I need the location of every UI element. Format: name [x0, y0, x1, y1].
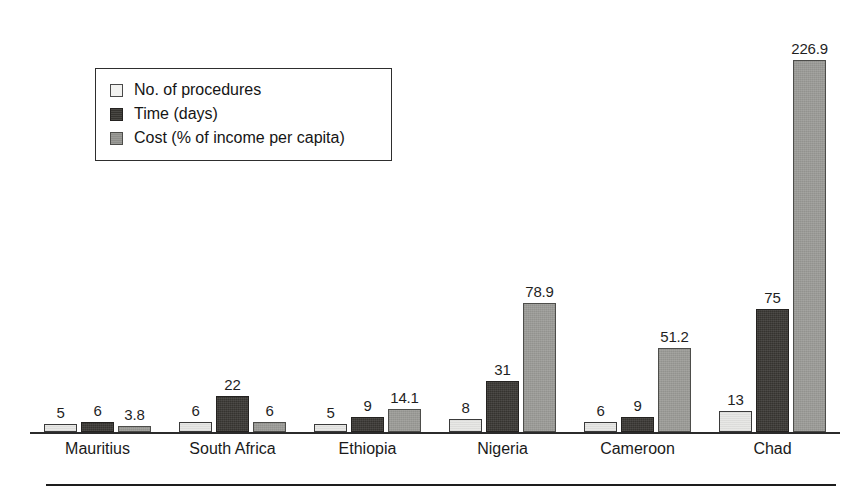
category-label: Nigeria — [435, 440, 570, 458]
bar-slot: 22 — [216, 0, 249, 432]
bar[interactable] — [449, 419, 482, 432]
bar-group-bars: 6951.2 — [570, 0, 705, 432]
bar[interactable] — [388, 409, 421, 432]
legend-label-cost-pct-income: Cost (% of income per capita) — [134, 129, 345, 147]
bar[interactable] — [81, 422, 114, 432]
bar-slot: 78.9 — [523, 0, 556, 432]
bar-group-bars: 1375226.9 — [705, 0, 840, 432]
category-axis-line — [30, 432, 840, 434]
bar-slot: 6 — [179, 0, 212, 432]
bar-value-label: 226.9 — [791, 41, 828, 56]
bar-group: 563.8Mauritius — [30, 0, 165, 432]
legend-item-cost-pct-income: Cost (% of income per capita) — [110, 126, 379, 150]
bar-group-bars: 563.8 — [30, 0, 165, 432]
bar-slot: 6 — [584, 0, 617, 432]
bar-slot: 9 — [621, 0, 654, 432]
bar-slot: 31 — [486, 0, 519, 432]
bar[interactable] — [216, 396, 249, 432]
bar-value-label: 5 — [326, 405, 334, 420]
footer-caption — [52, 490, 552, 499]
bar[interactable] — [756, 309, 789, 432]
chart-legend: No. of procedures Time (days) Cost (% of… — [95, 68, 392, 161]
bar[interactable] — [523, 303, 556, 432]
bar-groups: 563.8Mauritius6226South Africa5914.1Ethi… — [30, 0, 840, 432]
chart-page: 563.8Mauritius6226South Africa5914.1Ethi… — [0, 0, 863, 499]
bar[interactable] — [719, 411, 752, 432]
bar-slot: 75 — [756, 0, 789, 432]
bar-value-label: 6 — [191, 403, 199, 418]
bar-slot: 5 — [314, 0, 347, 432]
bar-group: 83178.9Nigeria — [435, 0, 570, 432]
bar-value-label: 5 — [56, 405, 64, 420]
category-label: Mauritius — [30, 440, 165, 458]
bar-slot: 8 — [449, 0, 482, 432]
bar-value-label: 31 — [494, 362, 510, 377]
bar-slot: 226.9 — [793, 0, 826, 432]
bar-value-label: 78.9 — [525, 284, 553, 299]
bar-value-label: 51.2 — [660, 329, 688, 344]
bar-slot: 9 — [351, 0, 384, 432]
bar-value-label: 75 — [764, 290, 780, 305]
category-label: Cameroon — [570, 440, 705, 458]
legend-item-no-of-procedures: No. of procedures — [110, 78, 379, 102]
bar[interactable] — [584, 422, 617, 432]
legend-swatch-no-of-procedures-icon — [110, 84, 123, 97]
legend-label-no-of-procedures: No. of procedures — [134, 81, 261, 99]
bar-group-bars: 83178.9 — [435, 0, 570, 432]
footer-divider — [46, 484, 836, 486]
bar[interactable] — [44, 424, 77, 432]
bar-slot: 5 — [44, 0, 77, 432]
legend-swatch-time-days-icon — [110, 108, 123, 121]
bar-value-label: 6 — [93, 403, 101, 418]
bar[interactable] — [179, 422, 212, 432]
bar-slot: 51.2 — [658, 0, 691, 432]
bar-group: 6226South Africa — [165, 0, 300, 432]
legend-swatch-cost-pct-income-icon — [110, 132, 123, 145]
bar-slot: 3.8 — [118, 0, 151, 432]
category-label: Ethiopia — [300, 440, 435, 458]
bar-value-label: 9 — [633, 398, 641, 413]
bar-value-label: 14.1 — [390, 390, 418, 405]
bar-value-label: 8 — [461, 400, 469, 415]
bar[interactable] — [486, 381, 519, 432]
bar[interactable] — [621, 417, 654, 432]
bar[interactable] — [793, 60, 826, 432]
bar-value-label: 13 — [727, 392, 743, 407]
category-label: Chad — [705, 440, 840, 458]
legend-item-time-days: Time (days) — [110, 102, 379, 126]
bar-slot: 6 — [253, 0, 286, 432]
bar-chart-plot: 563.8Mauritius6226South Africa5914.1Ethi… — [0, 0, 863, 499]
bar-value-label: 22 — [224, 377, 240, 392]
bar-group-bars: 5914.1 — [300, 0, 435, 432]
bar-value-label: 6 — [265, 403, 273, 418]
legend-label-time-days: Time (days) — [134, 105, 218, 123]
bar[interactable] — [253, 422, 286, 432]
bar-group: 5914.1Ethiopia — [300, 0, 435, 432]
bar-group-bars: 6226 — [165, 0, 300, 432]
bar-value-label: 3.8 — [124, 407, 144, 422]
bar-slot: 6 — [81, 0, 114, 432]
bar-group: 1375226.9Chad — [705, 0, 840, 432]
bar[interactable] — [658, 348, 691, 432]
bar-slot: 14.1 — [388, 0, 421, 432]
bar-slot: 13 — [719, 0, 752, 432]
category-label: South Africa — [165, 440, 300, 458]
bar[interactable] — [351, 417, 384, 432]
bar-value-label: 9 — [363, 398, 371, 413]
bar-group: 6951.2Cameroon — [570, 0, 705, 432]
bar[interactable] — [314, 424, 347, 432]
bar-value-label: 6 — [596, 403, 604, 418]
